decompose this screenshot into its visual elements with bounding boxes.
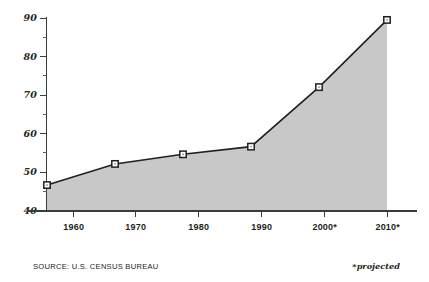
data-point-center-2010 [386,19,387,20]
y-tick-80 [40,56,47,57]
x-tick-2010 [387,211,388,217]
x-axis-label-1990: 1990 [230,222,294,232]
y-tick-50 [40,172,47,173]
x-tick-1980 [198,211,199,217]
y-tick-60 [40,133,47,134]
y-tick-90 [40,18,47,19]
data-point-center-1980 [182,154,183,155]
x-tick-1990 [261,211,262,217]
x-axis-label-2010: 2010* [356,222,420,232]
x-axis-label-1960: 1960 [42,222,106,232]
y-axis-label-50: 50 [0,166,37,177]
series-plot [47,18,387,210]
projected-note: *projected [352,261,400,271]
x-tick-1970 [135,211,136,217]
data-point-center-1960 [46,184,47,185]
x-tick-1960 [73,211,74,217]
y-tick-70 [40,95,47,96]
y-axis-label-80: 80 [0,51,37,62]
y-axis-label-70: 70 [0,89,37,100]
source-note: SOURCE: U.S. CENSUS BUREAU [33,262,159,271]
x-axis-line [27,210,417,212]
data-point-center-2000 [318,87,319,88]
y-axis-label-60: 60 [0,128,37,139]
data-point-center-1970 [114,163,115,164]
x-axis-label-1970: 1970 [104,222,168,232]
census-area-chart: 90 80 70 60 50 40 1960 1970 1980 1990 20… [0,0,429,282]
x-axis-label-1980: 1980 [167,222,231,232]
x-axis-label-2000: 2000* [293,222,357,232]
plot-area [47,18,387,210]
x-tick-2000 [324,211,325,217]
area-fill-shape [47,20,387,210]
data-point-center-1990 [250,146,251,147]
y-axis-label-90: 90 [0,12,37,23]
